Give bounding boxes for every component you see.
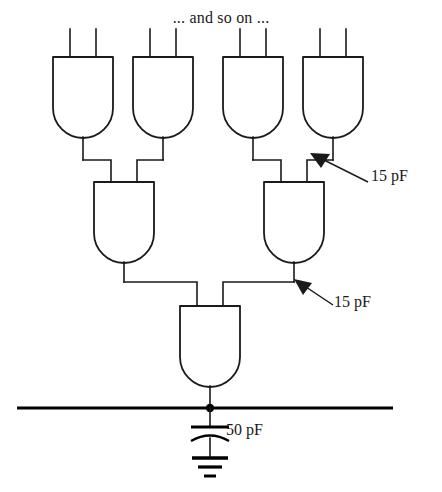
- interconnect-stage2-left-to-output-gate: [124, 282, 197, 306]
- and-gate-1[interactable]: [53, 29, 113, 160]
- and-gate-3-body: [223, 57, 283, 138]
- ground-symbol: [192, 458, 228, 476]
- and-gate-2-body: [133, 57, 193, 138]
- and-gate-stage2-right[interactable]: [264, 182, 324, 282]
- top-note-label: ... and so on ...: [0, 10, 442, 26]
- leader-arrowhead-mid: [294, 279, 312, 295]
- annotation-leader-mid: [294, 279, 333, 305]
- capacitor-symbol[interactable]: [191, 408, 229, 458]
- interconnect-stage2-right-to-output-gate: [223, 282, 294, 306]
- and-gate-stage2-right-body: [264, 182, 324, 263]
- and-gate-2[interactable]: [133, 29, 193, 160]
- interconnect-gate3-to-stage2-right: [253, 160, 281, 182]
- schematic-canvas: ... and so on ... 15 pF 15 pF 50 pF: [0, 0, 442, 492]
- and-gate-output[interactable]: [180, 306, 240, 408]
- interconnect-gate2-to-stage2-left: [137, 160, 163, 182]
- and-gate-4-body: [303, 57, 363, 138]
- interconnect-gate1-to-stage2-left: [83, 160, 111, 182]
- mid-capacitance-label: 15 pF: [334, 294, 371, 310]
- and-gate-stage2-left-body: [94, 182, 154, 263]
- and-gate-3[interactable]: [223, 29, 283, 160]
- upper-capacitance-label: 15 pF: [371, 168, 408, 184]
- and-gate-1-body: [53, 57, 113, 138]
- and-gate-4[interactable]: [303, 29, 363, 160]
- and-gate-output-body: [180, 306, 240, 387]
- bus-capacitance-label: 50 pF: [226, 422, 263, 438]
- circuit-schematic: [0, 0, 442, 492]
- annotation-leader-upper: [310, 153, 368, 182]
- and-gate-stage2-left[interactable]: [94, 182, 154, 282]
